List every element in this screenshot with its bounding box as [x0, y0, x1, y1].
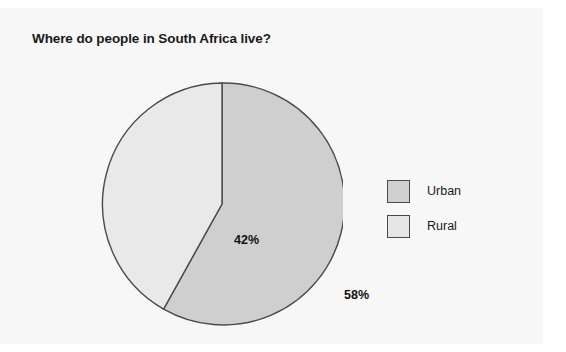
pie-label-urban: 58%: [344, 288, 369, 302]
legend-swatch-urban: [387, 180, 410, 203]
legend-label-rural: Rural: [427, 219, 457, 233]
chart-title: Where do people in South Africa live?: [32, 31, 271, 46]
chart-figure: Where do people in South Africa live? 42…: [0, 8, 543, 344]
pie-chart: 42% 58%: [101, 82, 343, 326]
legend-label-urban: Urban: [427, 184, 461, 198]
pie-svg: [101, 82, 343, 326]
legend-item-rural[interactable]: Rural: [387, 214, 497, 238]
legend-item-urban[interactable]: Urban: [387, 179, 497, 203]
pie-label-rural: 42%: [234, 233, 259, 247]
legend-swatch-rural: [387, 215, 410, 238]
chart-legend: Urban Rural: [387, 179, 497, 249]
